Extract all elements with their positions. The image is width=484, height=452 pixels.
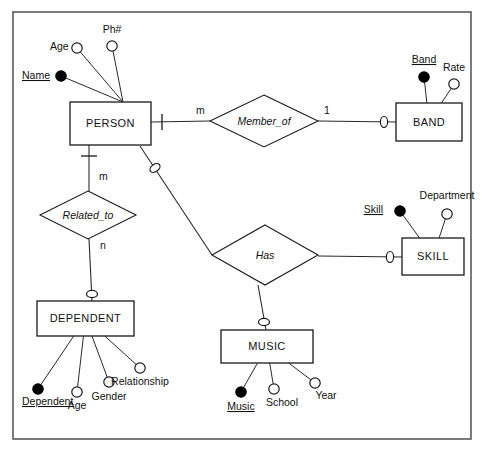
cardinality-label-0: m xyxy=(196,104,205,116)
attribute-circle xyxy=(442,209,452,219)
relationship-member_of[interactable]: Member_of xyxy=(210,95,318,147)
key-attribute-circle xyxy=(236,387,246,397)
key-attribute-circle xyxy=(419,72,429,82)
attribute-label: Rate xyxy=(443,61,465,73)
attribute-connector xyxy=(425,82,427,103)
attribute-label: Year xyxy=(315,389,337,401)
relationship-label: Has xyxy=(256,249,275,261)
attribute-label: Name xyxy=(22,69,50,81)
attribute-circle xyxy=(72,43,82,53)
cardinality-label-3: n xyxy=(100,239,106,251)
connector-person-has xyxy=(140,146,212,255)
connectors-layer xyxy=(89,121,402,330)
entity-band[interactable]: BAND xyxy=(396,103,462,141)
optional-marker-optional-band xyxy=(380,117,387,128)
relationship-has[interactable]: Has xyxy=(212,225,318,285)
entity-music[interactable]: MUSIC xyxy=(221,330,313,363)
attribute-circle xyxy=(72,387,82,397)
attribute-connector xyxy=(78,336,84,387)
entity-label: MUSIC xyxy=(248,340,285,352)
attribute-label: Department xyxy=(420,189,475,201)
entity-label: DEPENDENT xyxy=(50,312,121,324)
attribute-label: Ph# xyxy=(103,23,122,35)
attribute-band-rate[interactable]: Rate xyxy=(442,61,466,103)
entity-dependent[interactable]: DEPENDENT xyxy=(37,301,134,336)
relationship-related_to[interactable]: Related_to xyxy=(40,191,136,239)
attribute-dependent-gender[interactable]: Gender xyxy=(91,336,127,402)
attribute-label: Age xyxy=(68,399,87,411)
attribute-dependent-age[interactable]: Age xyxy=(68,336,87,411)
er-diagram-canvas: Member_ofRelated_toHas PERSONBANDDEPENDE… xyxy=(0,0,484,452)
attribute-music-school[interactable]: School xyxy=(266,363,298,408)
cardinality-label-2: m xyxy=(99,170,108,182)
attribute-label: School xyxy=(266,396,298,408)
attribute-connector xyxy=(439,219,445,238)
attribute-circle xyxy=(310,378,320,388)
optional-marker-optional-person-has xyxy=(148,162,161,174)
attribute-connector xyxy=(66,78,123,102)
key-attribute-circle xyxy=(56,71,66,81)
entity-label: SKILL xyxy=(417,250,449,262)
attribute-label: Band xyxy=(412,53,437,65)
er-diagram-svg: Member_ofRelated_toHas PERSONBANDDEPENDE… xyxy=(0,0,484,452)
attribute-label: Music xyxy=(227,400,254,412)
optional-marker-optional-dependent xyxy=(87,290,98,297)
attribute-dependent-relationship[interactable]: Relationship xyxy=(105,336,169,387)
attribute-connector xyxy=(270,363,273,384)
attribute-skill-department[interactable]: Department xyxy=(420,189,475,238)
attribute-connector xyxy=(289,363,311,380)
attribute-band-band[interactable]: Band xyxy=(412,53,437,103)
entity-person[interactable]: PERSON xyxy=(70,102,151,145)
attribute-skill-skill[interactable]: Skill xyxy=(364,203,420,238)
attribute-circle xyxy=(269,384,279,394)
attribute-circle xyxy=(107,41,117,51)
attribute-connector xyxy=(105,336,136,365)
attribute-circle xyxy=(135,363,145,373)
key-attribute-circle xyxy=(395,206,405,216)
entity-label: BAND xyxy=(413,116,445,128)
cardinality-label-1: 1 xyxy=(324,104,330,116)
attribute-connector xyxy=(113,51,123,102)
attribute-connector xyxy=(80,52,123,102)
attribute-connector xyxy=(41,336,74,385)
entity-skill[interactable]: SKILL xyxy=(402,238,464,275)
entity-label: PERSON xyxy=(86,117,135,129)
attribute-circle xyxy=(449,79,459,89)
attribute-connector xyxy=(244,363,258,387)
connector-person-member_of xyxy=(151,121,210,122)
attribute-label: Dependent xyxy=(22,395,73,407)
attribute-connector xyxy=(403,215,420,238)
attribute-connector xyxy=(442,88,452,103)
optional-marker-optional-music xyxy=(259,318,270,325)
attribute-dependent-dependent[interactable]: Dependent xyxy=(22,336,74,407)
attribute-music-music[interactable]: Music xyxy=(227,363,257,412)
attribute-connector xyxy=(92,336,107,377)
attribute-person-name[interactable]: Name xyxy=(22,69,123,102)
attribute-label: Age xyxy=(50,40,69,52)
cardinality-markers-layer xyxy=(81,114,394,326)
optional-marker-optional-skill xyxy=(386,252,393,263)
key-attribute-circle xyxy=(33,384,43,394)
attribute-label: Skill xyxy=(364,203,383,215)
relationship-label: Member_of xyxy=(237,115,291,127)
relationship-label: Related_to xyxy=(63,209,114,221)
attribute-label: Gender xyxy=(91,390,127,402)
attribute-label: Relationship xyxy=(111,375,169,387)
